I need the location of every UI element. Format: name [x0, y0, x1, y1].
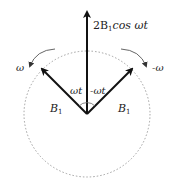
- rotation-left-label: ω: [16, 63, 24, 73]
- rotating-field-diagram: 2B1cos ωt ωt -ωt ω -ω B1 B1: [0, 0, 174, 188]
- angle-left-label: ωt: [70, 86, 82, 96]
- left-vector-label: B1: [50, 103, 63, 116]
- right-vector-label: B1: [118, 103, 131, 116]
- rotation-arrow-left-icon: [30, 49, 55, 66]
- resultant-label: 2B1cos ωt: [93, 20, 148, 33]
- angle-right-label: -ωt: [90, 86, 106, 96]
- rotation-right-label: -ω: [152, 63, 164, 73]
